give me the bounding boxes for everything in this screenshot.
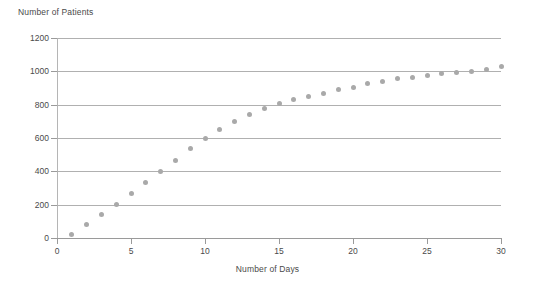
- x-axis-tick-mark: [131, 239, 132, 244]
- y-axis-tick-label: 800: [35, 100, 49, 110]
- y-axis-tick-label-group: 020040060080010001200: [0, 0, 49, 287]
- data-point: [188, 146, 193, 151]
- gridline-horizontal: [57, 71, 501, 72]
- x-axis-title: Number of Days: [0, 264, 535, 274]
- data-point: [395, 76, 400, 81]
- data-point: [158, 169, 163, 174]
- chart-container: Number of Patients 020040060080010001200…: [0, 0, 535, 287]
- gridline-horizontal: [57, 38, 501, 39]
- data-point: [143, 180, 148, 185]
- data-point: [484, 67, 489, 72]
- gridline-horizontal: [57, 205, 501, 206]
- data-point: [247, 112, 252, 117]
- data-point: [217, 127, 222, 132]
- x-axis-tick-mark: [427, 239, 428, 244]
- x-axis-tick-label: 15: [264, 246, 294, 256]
- x-axis-tick-label: 30: [486, 246, 516, 256]
- data-point: [173, 158, 178, 163]
- data-point: [99, 212, 104, 217]
- data-point: [439, 71, 444, 76]
- x-axis-tick-label: 20: [338, 246, 368, 256]
- x-axis-tick-mark: [353, 239, 354, 244]
- x-axis-tick-label: 0: [42, 246, 72, 256]
- y-axis-tick-label: 1000: [30, 66, 49, 76]
- data-point: [351, 85, 356, 90]
- gridline-horizontal: [57, 138, 501, 139]
- data-point: [291, 97, 296, 102]
- y-axis-tick-mark: [51, 138, 57, 139]
- data-point: [84, 222, 89, 227]
- y-axis-tick-mark: [51, 171, 57, 172]
- y-axis-tick-mark: [51, 205, 57, 206]
- y-axis-tick-mark: [51, 71, 57, 72]
- x-axis-tick-mark: [279, 239, 280, 244]
- x-axis-tick-mark: [501, 239, 502, 244]
- x-axis-tick-mark: [57, 239, 58, 244]
- y-axis-tick-mark: [51, 38, 57, 39]
- data-point: [380, 79, 385, 84]
- data-point: [277, 101, 282, 106]
- data-point: [336, 87, 341, 92]
- data-point: [129, 191, 134, 196]
- y-axis-tick-label: 400: [35, 166, 49, 176]
- y-axis-tick-label: 0: [44, 233, 49, 243]
- y-axis-tick-mark: [51, 105, 57, 106]
- data-point: [321, 91, 326, 96]
- data-point: [203, 136, 208, 141]
- data-point: [425, 73, 430, 78]
- data-point: [262, 106, 267, 111]
- data-point: [365, 81, 370, 86]
- data-point: [499, 64, 504, 69]
- x-axis-tick-label: 10: [190, 246, 220, 256]
- x-axis-tick-label: 5: [116, 246, 146, 256]
- y-axis-tick-label: 200: [35, 200, 49, 210]
- plot-area: [57, 38, 501, 238]
- data-point: [114, 202, 119, 207]
- data-point: [306, 94, 311, 99]
- y-axis-tick-label: 1200: [30, 33, 49, 43]
- data-point: [69, 232, 74, 237]
- data-point: [232, 119, 237, 124]
- x-axis-tick-mark: [205, 239, 206, 244]
- x-axis-tick-label: 25: [412, 246, 442, 256]
- data-point: [454, 70, 459, 75]
- data-point: [410, 75, 415, 80]
- gridline-horizontal: [57, 171, 501, 172]
- y-axis-tick-label: 600: [35, 133, 49, 143]
- data-point: [469, 69, 474, 74]
